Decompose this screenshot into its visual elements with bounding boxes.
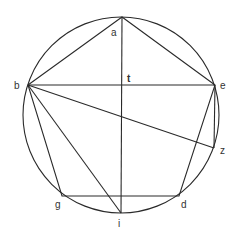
label-e: e <box>220 80 226 91</box>
line-a-i <box>121 17 122 213</box>
line-e-z <box>214 85 215 148</box>
label-b: b <box>14 80 20 91</box>
label-g: g <box>55 199 61 210</box>
label-t: t <box>127 73 131 84</box>
line-b-i <box>28 85 121 213</box>
label-a: a <box>111 27 117 38</box>
label-i: i <box>118 218 120 229</box>
label-d: d <box>181 199 187 210</box>
pentagon-in-circle-diagram: a b e t z g d i <box>0 0 239 244</box>
label-z: z <box>220 145 225 156</box>
